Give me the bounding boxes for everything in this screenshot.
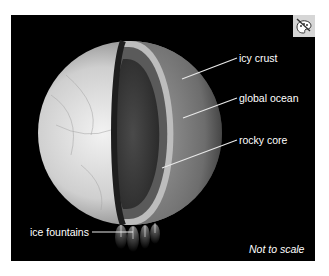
not-to-scale-note: Not to scale — [249, 243, 304, 255]
label-rocky-core: rocky core — [239, 134, 287, 146]
label-icy-crust: icy crust — [239, 52, 278, 64]
ice-fountains-plumes — [115, 223, 160, 252]
artist-palette-icon — [293, 15, 315, 37]
label-global-ocean: global ocean — [239, 92, 299, 104]
label-ice-fountains: ice fountains — [30, 226, 89, 238]
artist-impression-badge — [293, 15, 315, 37]
diagram-panel: icy crust global ocean rocky core ice fo… — [11, 15, 315, 261]
